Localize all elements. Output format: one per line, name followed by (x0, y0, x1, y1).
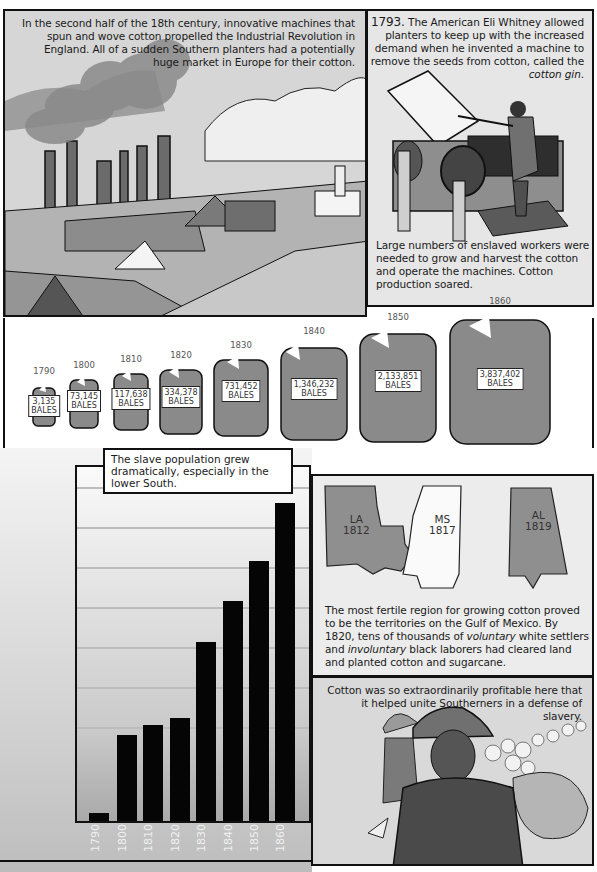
bale-count: 334,378 (164, 388, 197, 397)
gulf-states-map-panel: LA1812 MS1817 AL1819 The most fertile re… (311, 474, 594, 677)
bale-count: 73,145 (70, 392, 98, 401)
alabama-shape (509, 488, 567, 588)
cotton-bales-chart: 1790 3,135BALES 1800 73,145BALES 1810 11… (3, 318, 594, 448)
chart-title: The slave population grew dramatically, … (103, 448, 293, 494)
state-label-al: AL1819 (525, 510, 552, 532)
bale-1800: 1800 73,145BALES (67, 360, 101, 432)
mississippi-shape (403, 486, 461, 588)
x-tick-1830: 1830 (195, 824, 208, 852)
bale-count-label: 73,145BALES (67, 390, 101, 412)
bale-1850: 1850 2,133,851BALES (357, 312, 439, 446)
bale-unit: BALES (378, 381, 419, 390)
bar-1830 (196, 642, 216, 821)
caption-emphasis: voluntary (467, 630, 516, 642)
bar-1860 (275, 503, 295, 821)
bale-year: 1860 (447, 296, 553, 306)
bar-plot (75, 465, 311, 823)
bale-unit: BALES (294, 389, 335, 398)
caption-emphasis: involuntary (348, 643, 406, 655)
state-year: 1817 (429, 525, 456, 536)
bale-year: 1840 (278, 326, 350, 336)
bar-1800 (117, 735, 137, 821)
cotton-gin-caption: 1793. The American Eli Whitney allowed p… (369, 16, 584, 81)
bale-year: 1800 (67, 360, 101, 370)
profitable-caption: Cotton was so extraordinarily profitable… (322, 684, 582, 723)
bale-count: 3,837,402 (480, 370, 521, 379)
state-label-la: LA1812 (343, 514, 370, 536)
bar-1850 (249, 561, 269, 821)
bale-count: 117,638 (114, 390, 147, 399)
x-tick-1850: 1850 (248, 824, 261, 852)
bale-count-label: 3,135BALES (28, 395, 60, 417)
caption-emphasis: cotton gin (529, 68, 581, 80)
x-tick-1810: 1810 (142, 824, 155, 852)
bale-year: 1820 (157, 350, 205, 360)
caption-year: 1793. (371, 15, 405, 29)
bale-count: 3,135 (31, 397, 57, 406)
bale-1840: 1840 1,346,232BALES (278, 326, 350, 444)
bale-unit: BALES (114, 399, 147, 408)
states-map-illustration (313, 476, 594, 606)
gulf-caption: The most fertile region for growing cott… (325, 604, 590, 669)
bale-unit: BALES (164, 397, 197, 406)
bale-count: 731,452 (224, 382, 257, 391)
bar-1810 (143, 725, 163, 821)
industrial-revolution-panel: In the second half of the 18th century, … (3, 9, 367, 317)
bale-year: 1790 (30, 366, 58, 376)
bale-count-label: 117,638BALES (111, 388, 150, 410)
bale-1860: 1860 3,837,402BALES (447, 296, 553, 448)
industrial-caption: In the second half of the 18th century, … (15, 17, 355, 69)
bale-1820: 1820 334,378BALES (157, 350, 205, 438)
production-caption: Large numbers of enslaved workers were n… (376, 239, 591, 291)
bale-count-label: 731,452BALES (221, 380, 260, 402)
state-year: 1819 (525, 521, 552, 532)
bale-1810: 1810 117,638BALES (111, 354, 151, 434)
bale-unit: BALES (70, 401, 98, 410)
state-label-ms: MS1817 (429, 514, 456, 536)
bale-count: 2,133,851 (378, 372, 419, 381)
divider (0, 860, 312, 862)
x-tick-1860: 1860 (274, 824, 287, 852)
defense-of-slavery-panel: Cotton was so extraordinarily profitable… (311, 676, 594, 866)
bale-1830: 1830 731,452BALES (211, 340, 271, 440)
bale-count-label: 334,378BALES (161, 386, 200, 408)
bale-count-label: 1,346,232BALES (291, 378, 338, 400)
bar-1790 (89, 813, 109, 821)
bale-unit: BALES (480, 379, 521, 388)
bale-1790: 1790 3,135BALES (30, 366, 58, 428)
bar-1840 (223, 601, 243, 821)
bale-count-label: 2,133,851BALES (375, 370, 422, 392)
state-year: 1812 (343, 525, 370, 536)
bale-count: 1,346,232 (294, 380, 335, 389)
bale-unit: BALES (224, 391, 257, 400)
caption-end: . (581, 68, 584, 80)
x-tick-1790: 1790 (89, 824, 102, 852)
cotton-gin-panel: 1793. The American Eli Whitney allowed p… (366, 9, 594, 307)
bale-year: 1850 (357, 312, 439, 322)
bale-unit: BALES (31, 406, 57, 415)
bale-year: 1810 (111, 354, 151, 364)
bale-count-label: 3,837,402BALES (477, 368, 524, 390)
x-tick-1840: 1840 (222, 824, 235, 852)
x-tick-1820: 1820 (169, 824, 182, 852)
x-tick-1800: 1800 (116, 824, 129, 852)
bale-year: 1830 (211, 340, 271, 350)
bar-1820 (170, 718, 190, 821)
